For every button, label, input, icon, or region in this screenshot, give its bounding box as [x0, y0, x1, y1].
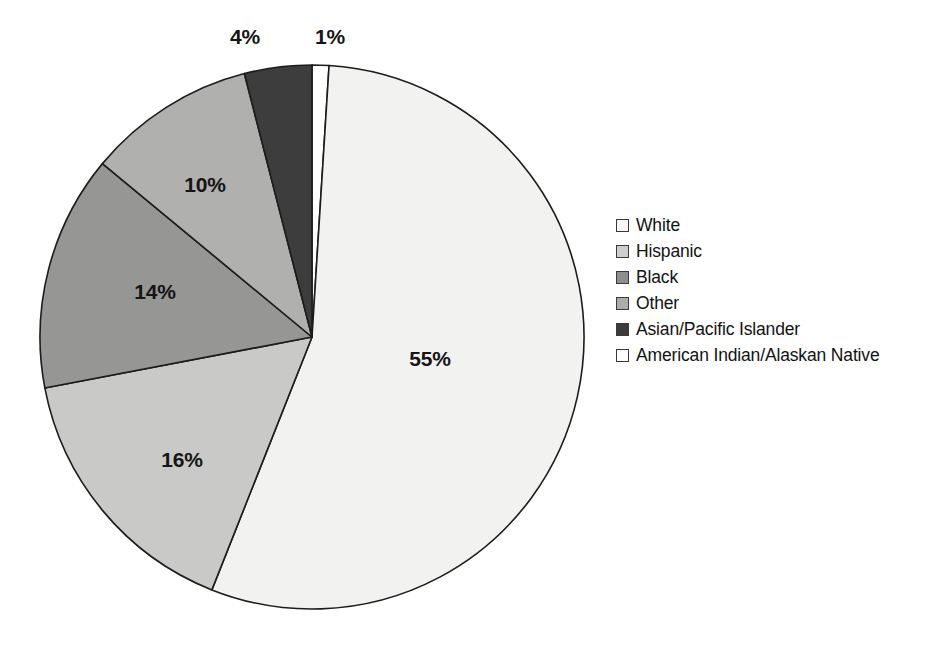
- legend-item[interactable]: Hispanic: [616, 238, 928, 264]
- pie-slice-value-label: 55%: [409, 347, 451, 370]
- pie-slice-value-label: 4%: [230, 25, 260, 48]
- pie-chart-figure: 1%55%16%14%10%4% WhiteHispanicBlackOther…: [0, 0, 932, 649]
- pie-slice-value-label: 10%: [184, 173, 226, 196]
- legend-swatch-icon: [616, 271, 629, 284]
- legend-item-label: Asian/Pacific Islander: [636, 319, 800, 339]
- pie-slice-group: [40, 65, 584, 609]
- legend-swatch-icon: [616, 219, 629, 232]
- chart-legend: WhiteHispanicBlackOtherAsian/Pacific Isl…: [616, 212, 928, 368]
- legend-item[interactable]: Asian/Pacific Islander: [616, 316, 928, 342]
- legend-swatch-icon: [616, 349, 629, 362]
- legend-swatch-icon: [616, 297, 629, 310]
- pie-slice-value-label: 14%: [134, 280, 176, 303]
- legend-item[interactable]: Black: [616, 264, 928, 290]
- legend-item[interactable]: White: [616, 212, 928, 238]
- legend-item[interactable]: Other: [616, 290, 928, 316]
- pie-slice-value-label: 1%: [315, 25, 345, 48]
- legend-item-label: Other: [636, 293, 679, 313]
- legend-swatch-icon: [616, 323, 629, 336]
- legend-item-label: White: [636, 215, 680, 235]
- legend-item-label: Black: [636, 267, 678, 287]
- legend-item-label: American Indian/Alaskan Native: [636, 345, 880, 365]
- pie-slice-value-label: 16%: [161, 448, 203, 471]
- legend-item-label: Hispanic: [636, 241, 702, 261]
- legend-item[interactable]: American Indian/Alaskan Native: [616, 342, 928, 368]
- legend-swatch-icon: [616, 245, 629, 258]
